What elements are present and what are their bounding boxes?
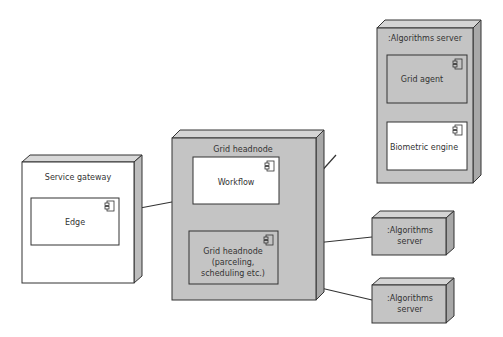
node-label-line1: :Algorithms bbox=[387, 226, 433, 235]
component-label: Workflow bbox=[218, 178, 255, 187]
node-algorithms-server-main[interactable]: :Algorithms server Grid agent Biometric … bbox=[377, 20, 481, 183]
node-algorithms-server-2[interactable]: :Algorithms server bbox=[372, 278, 454, 323]
node-label: Service gateway bbox=[45, 173, 112, 182]
node-algorithms-server-1[interactable]: :Algorithms server bbox=[372, 211, 454, 255]
component-grid-agent[interactable]: Grid agent bbox=[387, 55, 467, 103]
node-label: Grid headnode bbox=[213, 145, 272, 154]
component-label-line1: Grid headnode bbox=[203, 247, 262, 256]
node-service-gateway[interactable]: Service gateway Edge bbox=[22, 155, 142, 283]
component-biometric-engine[interactable]: Biometric engine bbox=[387, 122, 467, 170]
component-workflow[interactable]: Workflow bbox=[193, 157, 279, 204]
node-label-line2: server bbox=[397, 305, 423, 314]
deployment-diagram: Service gateway Edge Grid headnode Workf… bbox=[0, 0, 503, 337]
component-edge[interactable]: Edge bbox=[31, 198, 119, 245]
component-label: Grid agent bbox=[401, 75, 443, 84]
node-label: :Algorithms server bbox=[388, 34, 463, 43]
node-grid-headnode[interactable]: Grid headnode Workflow Grid headnode (pa… bbox=[172, 130, 324, 300]
component-label: Biometric engine bbox=[390, 143, 458, 152]
component-label-line3: scheduling etc.) bbox=[201, 269, 265, 278]
component-label-line2: (parceling, bbox=[212, 258, 255, 267]
component-label: Edge bbox=[65, 218, 85, 227]
component-grid-headnode[interactable]: Grid headnode (parceling, scheduling etc… bbox=[189, 231, 278, 284]
node-label-line1: :Algorithms bbox=[387, 294, 433, 303]
node-label-line2: server bbox=[397, 237, 423, 246]
